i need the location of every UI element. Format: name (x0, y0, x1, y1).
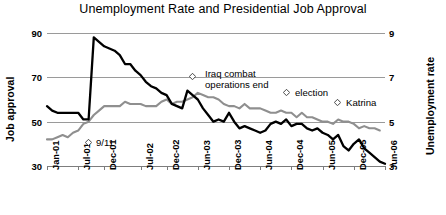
y-tick-right-5: 5 (389, 117, 409, 128)
x-tick-jun-03 (198, 166, 199, 170)
katrina-marker (334, 99, 341, 106)
x-tick-label-jun-04: Jun-04 (264, 140, 274, 170)
chart-title: Unemployment Rate and Presidential Job A… (0, 2, 446, 16)
y-axis-title-left: Job approval (4, 77, 16, 142)
x-tick-jul-01 (78, 166, 79, 170)
x-tick-label-dec-04: Dec-04 (295, 140, 305, 171)
x-tick-label-jan-01: Jan-01 (51, 141, 61, 170)
iraq-combat-label: Iraq combat operations end (205, 68, 268, 90)
y-tick-left-90: 90 (18, 28, 42, 39)
y-tick-left-30: 30 (18, 161, 42, 172)
x-tick-dec-01 (104, 166, 105, 170)
y-tick-right-9: 9 (389, 28, 409, 39)
x-tick-dec-04 (291, 166, 292, 170)
x-tick-dec-02 (167, 166, 168, 170)
y-tick-right-7: 7 (389, 72, 409, 83)
y-tick-left-50: 50 (18, 117, 42, 128)
x-tick-dec-05 (354, 166, 355, 170)
x-tick-jul-02 (141, 166, 142, 170)
x-tick-label-dec-02: Dec-02 (171, 140, 181, 171)
iraq-combat-label-line1: Iraq combat (205, 68, 256, 79)
katrina-label: Katrina (346, 97, 376, 108)
x-tick-jun-06 (385, 166, 386, 170)
iraq-combat-label-line2: operations end (205, 79, 268, 90)
x-tick-label-jun-06: Jun-06 (389, 140, 399, 170)
x-tick-jun-05 (323, 166, 324, 170)
nine-eleven-label: 9/11 (96, 137, 114, 148)
election-label: election (295, 87, 328, 98)
nine-eleven-marker (85, 139, 92, 146)
unemployment-rate-line (47, 93, 380, 140)
x-tick-label-jun-03: Jun-03 (202, 140, 212, 170)
y-tick-left-70: 70 (18, 72, 42, 83)
x-tick-label-jun-05: Jun-05 (327, 140, 337, 170)
x-tick-dec-03 (229, 166, 230, 170)
chart-container: Unemployment Rate and Presidential Job A… (0, 0, 446, 215)
y-axis-title-right: Unemployment rate (424, 57, 436, 155)
x-tick-label-jul-02: Jul-02 (145, 143, 155, 170)
x-tick-label-dec-03: Dec-03 (233, 140, 243, 171)
iraq-combat-marker (189, 73, 196, 80)
x-tick-jun-04 (260, 166, 261, 170)
x-tick-jan-01 (47, 166, 48, 170)
x-tick-label-jul-01: Jul-01 (82, 143, 92, 170)
x-tick-label-dec-05: Dec-05 (358, 140, 368, 171)
election-marker (283, 89, 290, 96)
